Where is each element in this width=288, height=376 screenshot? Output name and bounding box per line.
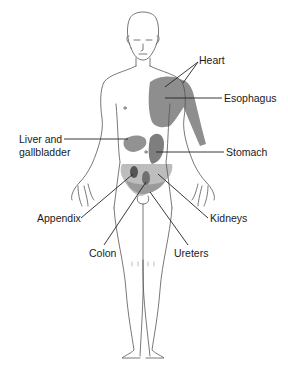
appendix-leader	[81, 174, 133, 218]
colon-leader	[104, 182, 146, 245]
shaded-regions	[121, 76, 206, 196]
heart-arm-region	[178, 80, 206, 146]
label-ureters: Ureters	[174, 247, 208, 259]
stomach-region	[149, 134, 164, 164]
label-stomach: Stomach	[226, 146, 267, 158]
label-liver-line1: Liver and	[19, 133, 62, 145]
body-outline-drawing	[0, 0, 288, 376]
label-appendix: Appendix	[37, 212, 81, 224]
liver-region	[123, 136, 146, 153]
label-liver-line2: gallbladder	[19, 146, 70, 158]
anatomy-figure: Heart Esophagus Liver and gallbladder St…	[0, 0, 288, 376]
heart-leader-2	[183, 62, 198, 83]
leader-lines	[64, 62, 224, 245]
label-esophagus: Esophagus	[224, 92, 277, 104]
kidneys-leader	[158, 174, 208, 218]
label-heart: Heart	[199, 54, 225, 66]
label-colon: Colon	[89, 247, 116, 259]
colon-region	[142, 171, 150, 185]
appendix-region	[130, 166, 138, 178]
ureters-leader	[150, 192, 188, 245]
label-kidneys: Kidneys	[210, 212, 247, 224]
